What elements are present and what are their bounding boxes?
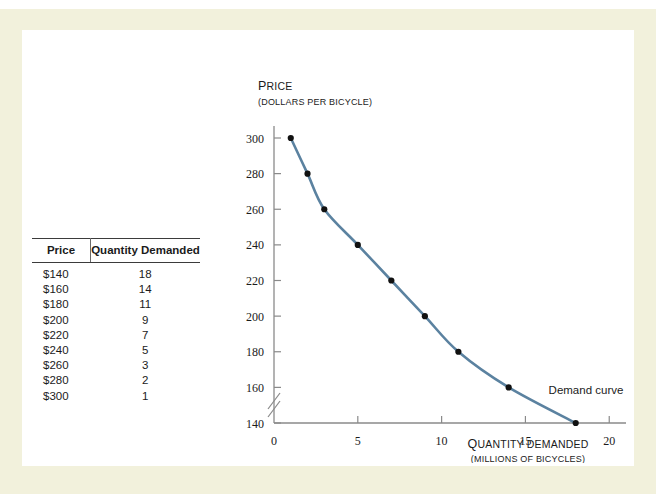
y-tick-label: 280 [246, 167, 264, 181]
table-row: $14018 [32, 263, 200, 282]
cell-price: $260 [32, 358, 91, 373]
y-axis-title: PRICE [258, 79, 292, 93]
x-tick-label: 15 [519, 434, 531, 448]
cell-quantity: 5 [91, 342, 201, 357]
cell-price: $220 [32, 327, 91, 342]
data-point [455, 349, 461, 355]
y-tick-label: 140 [246, 417, 264, 431]
column-header-quantity: Quantity Demanded [91, 239, 201, 263]
y-tick-label: 260 [246, 203, 264, 217]
table-header: Price Quantity Demanded [32, 239, 200, 263]
table-row: $2207 [32, 327, 200, 342]
table-row: $2603 [32, 358, 200, 373]
cell-price: $280 [32, 373, 91, 388]
cell-quantity: 2 [91, 373, 201, 388]
demand-schedule-table: Price Quantity Demanded $14018$16014$180… [32, 238, 200, 403]
cell-quantity: 3 [91, 358, 201, 373]
demand-curve-line [291, 138, 576, 423]
data-point [573, 420, 579, 426]
x-tick-label: 0 [271, 434, 277, 448]
data-point [506, 384, 512, 390]
table-row: $16014 [32, 282, 200, 297]
y-tick-label: 300 [246, 132, 264, 146]
y-tick-label: 160 [246, 381, 264, 395]
table: Price Quantity Demanded $14018$16014$180… [32, 238, 200, 403]
cell-quantity: 9 [91, 312, 201, 327]
cell-price: $180 [32, 297, 91, 312]
page: Price Quantity Demanded $14018$16014$180… [0, 0, 656, 494]
y-tick-label: 200 [246, 310, 264, 324]
y-tick-label: 180 [246, 345, 264, 359]
data-point [422, 313, 428, 319]
data-point [355, 242, 361, 248]
y-tick-label: 220 [246, 274, 264, 288]
x-tick-label: 5 [355, 434, 361, 448]
demand-curve-chart: PRICE (DOLLARS PER BICYCLE) QUANTITY DEM… [218, 38, 634, 463]
running-head [396, 0, 636, 6]
cell-quantity: 18 [91, 263, 201, 282]
table-row: $18011 [32, 297, 200, 312]
table-header-row: Price Quantity Demanded [32, 239, 200, 263]
table-row: $2009 [32, 312, 200, 327]
cell-price: $160 [32, 282, 91, 297]
demand-curve-label: Demand curve [549, 384, 624, 396]
data-point [304, 171, 310, 177]
data-point [288, 135, 294, 141]
y-tick-label: 240 [246, 238, 264, 252]
cell-price: $200 [32, 312, 91, 327]
x-tick-label: 10 [436, 434, 448, 448]
column-header-price: Price [32, 239, 91, 263]
cell-quantity: 14 [91, 282, 201, 297]
cell-price: $140 [32, 263, 91, 282]
chart-svg: PRICE (DOLLARS PER BICYCLE) QUANTITY DEM… [218, 38, 634, 463]
table-row: $2802 [32, 373, 200, 388]
data-point [321, 206, 327, 212]
x-axis-subtitle: (MILLIONS OF BICYCLES) [471, 454, 585, 463]
cell-quantity: 7 [91, 327, 201, 342]
y-axis-subtitle: (DOLLARS PER BICYCLE) [258, 97, 372, 107]
cell-quantity: 1 [91, 388, 201, 403]
figure-panel: Price Quantity Demanded $14018$16014$180… [22, 30, 634, 466]
cell-quantity: 11 [91, 297, 201, 312]
data-point [388, 277, 394, 283]
cell-price: $240 [32, 342, 91, 357]
table-row: $2405 [32, 342, 200, 357]
cell-price: $300 [32, 388, 91, 403]
data-point-markers [288, 135, 579, 426]
table-body: $14018$16014$18011$2009$2207$2405$2603$2… [32, 263, 200, 404]
table-row: $3001 [32, 388, 200, 403]
x-tick-label: 20 [603, 434, 615, 448]
y-axis-ticks: 140160180200220240260280300 [246, 132, 281, 431]
